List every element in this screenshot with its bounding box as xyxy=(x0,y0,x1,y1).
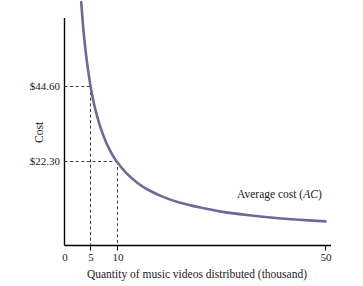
series-label-suffix: ) xyxy=(318,188,322,200)
series-label-average-cost: Average cost (AC) xyxy=(237,189,322,201)
chart-plot-area xyxy=(0,0,363,286)
x-tick-label-0: 0 xyxy=(58,252,72,263)
series-label-prefix: Average cost ( xyxy=(237,188,303,200)
x-tick-label-5: 5 xyxy=(84,252,98,263)
x-tick-label-50: 50 xyxy=(316,252,336,263)
y-axis-title: Cost xyxy=(34,122,46,143)
average-cost-chart: $44.60 $22.30 Cost 0 5 10 50 Quantity of… xyxy=(0,0,363,286)
y-tick-label-lower: $22.30 xyxy=(16,156,60,167)
series-label-abbrev: AC xyxy=(303,188,318,200)
y-tick-label-upper: $44.60 xyxy=(16,81,60,92)
x-tick-label-10: 10 xyxy=(108,252,128,263)
x-axis-title: Quantity of music videos distributed (th… xyxy=(64,269,330,281)
